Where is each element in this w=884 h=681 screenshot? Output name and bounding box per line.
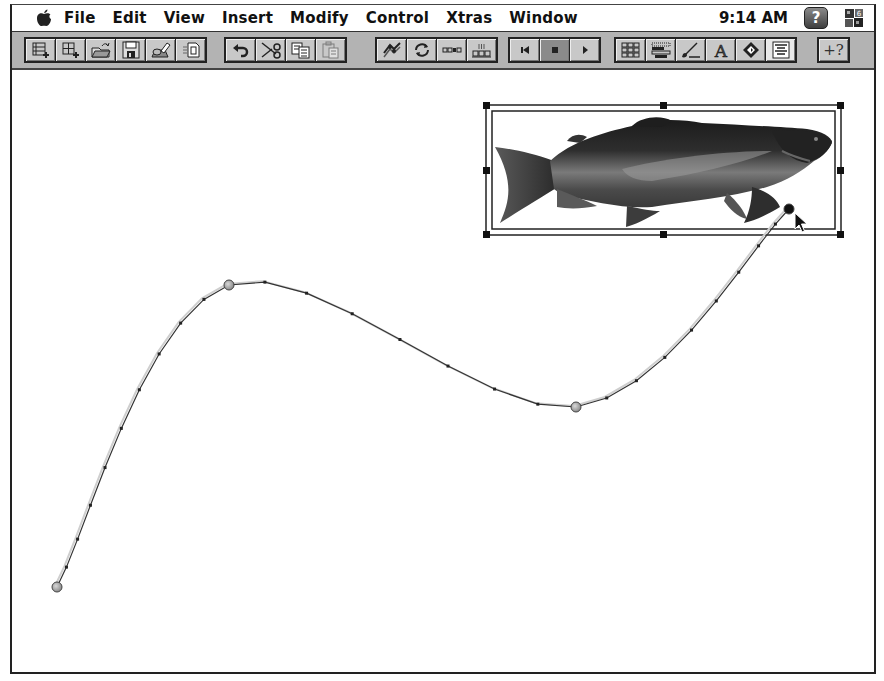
apple-icon[interactable]: [34, 8, 54, 28]
keyframe-handle[interactable]: [224, 280, 234, 290]
play-icon: [574, 41, 596, 59]
toolbar-group-sprite: [375, 37, 498, 63]
tween-frame-dot[interactable]: [493, 388, 496, 391]
rewind-button[interactable]: [510, 39, 539, 61]
keyframe-handle[interactable]: [52, 582, 62, 592]
toolbar-group-help: +?: [817, 37, 850, 63]
menu-file[interactable]: File: [64, 9, 96, 27]
copy-button[interactable]: [286, 39, 315, 61]
open-folder-icon: [90, 41, 112, 59]
help-balloon-icon[interactable]: ?: [804, 7, 828, 29]
menu-clock[interactable]: 9:14 AM: [719, 9, 788, 27]
score-channels-button[interactable]: [467, 39, 496, 61]
score-window-button[interactable]: [646, 39, 675, 61]
menu-control[interactable]: Control: [366, 9, 429, 27]
open-button[interactable]: [86, 39, 115, 61]
tween-frame-dot[interactable]: [774, 223, 777, 226]
loop-playback-icon: [411, 41, 433, 59]
tween-frame-dot[interactable]: [263, 281, 266, 284]
menu-bar-extras: 9:14 AM ? 6: [719, 5, 864, 31]
tween-frame-dot[interactable]: [76, 538, 79, 541]
menu-edit[interactable]: Edit: [113, 9, 147, 27]
tween-frame-dot[interactable]: [89, 504, 92, 507]
rewind-icon: [514, 41, 536, 59]
tween-frame-dot[interactable]: [715, 299, 718, 302]
menu-insert[interactable]: Insert: [222, 9, 273, 27]
play-button[interactable]: [570, 39, 599, 61]
new-cast-icon: [60, 41, 82, 59]
undo-icon: [230, 41, 252, 59]
tween-frame-dot[interactable]: [305, 292, 308, 295]
tween-frame-dot[interactable]: [635, 379, 638, 382]
tween-frame-dot[interactable]: [663, 356, 666, 359]
cut-button[interactable]: [256, 39, 285, 61]
toolbar-group-windows: A: [614, 37, 797, 63]
tween-frame-dot[interactable]: [158, 352, 161, 355]
text-window-button[interactable]: A: [706, 39, 735, 61]
tween-frame-dot[interactable]: [737, 271, 740, 274]
new-movie-button[interactable]: [26, 39, 55, 61]
director-app-icon[interactable]: 6: [844, 8, 864, 28]
help-glyph: ?: [812, 9, 821, 27]
trout-sprite[interactable]: [495, 117, 832, 227]
import-button[interactable]: [146, 39, 175, 61]
paint-window-button[interactable]: [676, 39, 705, 61]
resize-handle-top-center[interactable]: [660, 102, 667, 109]
sprite-channel-button[interactable]: [437, 39, 466, 61]
cast-window-button[interactable]: [616, 39, 645, 61]
tween-frame-dot[interactable]: [605, 396, 608, 399]
new-movie-icon: [30, 41, 52, 59]
exchange-cast-members-icon: [381, 41, 403, 59]
menu-modify[interactable]: Modify: [290, 9, 349, 27]
resize-handle-bottom-left[interactable]: [483, 231, 490, 238]
tween-frame-dot[interactable]: [536, 403, 539, 406]
tween-frame-dot[interactable]: [757, 244, 760, 247]
keyframe-handle[interactable]: [571, 402, 581, 412]
scissors-icon: [260, 41, 282, 59]
sprite-channel-icon: [441, 41, 463, 59]
tween-frame-dot[interactable]: [690, 329, 693, 332]
resize-handle-middle-left[interactable]: [483, 167, 490, 174]
compact-button[interactable]: [176, 39, 205, 61]
toolbar-group-file: [24, 37, 207, 63]
menu-xtras[interactable]: Xtras: [446, 9, 492, 27]
score-channels-icon: [471, 41, 493, 59]
tween-frame-dot[interactable]: [104, 466, 107, 469]
director-screen: File Edit View Insert Modify Control Xtr…: [10, 4, 876, 674]
tween-frame-dot[interactable]: [351, 312, 354, 315]
loop-button[interactable]: [407, 39, 436, 61]
tween-frame-dot[interactable]: [179, 322, 182, 325]
copy-icon: [290, 41, 312, 59]
menu-view[interactable]: View: [164, 9, 205, 27]
tween-frame-dot[interactable]: [446, 365, 449, 368]
save-button[interactable]: [116, 39, 145, 61]
message-window-button[interactable]: [766, 39, 795, 61]
tool-palette-button[interactable]: [736, 39, 765, 61]
context-help-icon: +?: [823, 41, 844, 59]
paste-button[interactable]: [316, 39, 345, 61]
resize-handle-bottom-center[interactable]: [660, 231, 667, 238]
floppy-disk-icon: [120, 41, 142, 59]
tween-frame-dot[interactable]: [398, 338, 401, 341]
resize-handle-top-right[interactable]: [837, 102, 844, 109]
context-help-button[interactable]: +?: [819, 39, 848, 61]
resize-handle-bottom-right[interactable]: [837, 231, 844, 238]
menu-window[interactable]: Window: [509, 9, 577, 27]
stage[interactable]: [12, 70, 874, 672]
stop-button[interactable]: [540, 39, 569, 61]
toolbar-group-playback: [508, 37, 601, 63]
cast-window-icon: [620, 41, 642, 59]
resize-handle-middle-right[interactable]: [837, 167, 844, 174]
score-window-icon: [650, 41, 672, 59]
keyframe-handle-selected[interactable]: [784, 204, 794, 214]
tween-frame-dot[interactable]: [120, 427, 123, 430]
message-window-icon: [770, 41, 792, 59]
tween-frame-dot[interactable]: [138, 388, 141, 391]
resize-handle-top-left[interactable]: [483, 102, 490, 109]
tween-frame-dot[interactable]: [202, 298, 205, 301]
undo-button[interactable]: [226, 39, 255, 61]
tween-frame-dot[interactable]: [65, 566, 68, 569]
tool-palette-icon: [740, 41, 762, 59]
exchange-cast-button[interactable]: [377, 39, 406, 61]
new-cast-button[interactable]: [56, 39, 85, 61]
